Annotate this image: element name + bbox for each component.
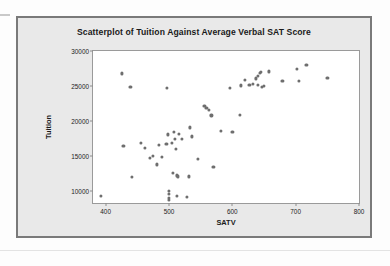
scatter-point [252, 83, 255, 86]
x-axis-tick-mark [105, 203, 106, 206]
scatter-point [166, 87, 169, 90]
scatter-point [129, 85, 132, 88]
scatter-point [207, 108, 210, 111]
y-axis-tick-mark [90, 156, 93, 157]
scatter-point [177, 132, 180, 135]
figure-root: Scatterplot of Tuition Against Average V… [0, 0, 390, 266]
scatter-point [151, 154, 154, 157]
x-axis-tick-mark [359, 203, 360, 206]
scatter-point [171, 172, 174, 175]
scatter-point [257, 83, 260, 86]
scatter-point [171, 141, 174, 144]
scatter-point [181, 137, 184, 140]
scatter-point [122, 144, 125, 147]
scatter-point [305, 63, 308, 66]
scatter-point [172, 130, 175, 133]
scatter-point [167, 198, 170, 201]
scatter-point [190, 135, 193, 138]
scatter-point [297, 80, 300, 83]
scatter-point [165, 143, 168, 146]
x-axis-label: SATV [92, 218, 360, 227]
scatter-points-layer [93, 51, 359, 203]
y-axis-tick-mark [90, 86, 93, 87]
scatter-point [240, 84, 243, 87]
chart-panel: Scatterplot of Tuition Against Average V… [16, 16, 372, 238]
scatter-point [143, 146, 146, 149]
scatter-point [262, 84, 265, 87]
scatter-point [187, 175, 190, 178]
scatter-point [210, 114, 213, 117]
scatter-point [196, 157, 199, 160]
scatter-point [295, 68, 298, 71]
y-axis-label: Tuition [44, 115, 53, 139]
y-axis-tick-mark [90, 51, 93, 52]
scatter-point [228, 87, 231, 90]
scatter-point [99, 194, 102, 197]
scatter-point [231, 131, 234, 134]
scatter-point [174, 147, 177, 150]
scatter-point [176, 175, 179, 178]
scatter-point [120, 72, 123, 75]
scatter-point [130, 175, 133, 178]
scatter-point [166, 133, 169, 136]
scatter-point [212, 165, 215, 168]
scatter-point [175, 194, 178, 197]
x-axis-tick-mark [232, 203, 233, 206]
y-axis-tick-mark [90, 121, 93, 122]
scatter-point [188, 126, 191, 129]
scatter-point [326, 76, 329, 79]
scatter-point [238, 113, 241, 116]
scan-artifact-top [0, 14, 10, 16]
x-axis-tick-mark [295, 203, 296, 206]
scatter-point [139, 141, 142, 144]
scatter-point [267, 70, 270, 73]
scan-artifact-bottom [0, 250, 390, 251]
scatter-point [259, 70, 262, 73]
scatter-point [256, 75, 259, 78]
scatter-point [281, 80, 284, 83]
scatter-point [243, 78, 246, 81]
scatter-point [173, 138, 176, 141]
chart-title: Scatterplot of Tuition Against Average V… [18, 27, 370, 37]
y-axis-tick-mark [90, 191, 93, 192]
plot-area: 1000015000200002500030000400500600700800 [92, 50, 360, 204]
x-axis-tick-mark [169, 203, 170, 206]
scatter-point [185, 195, 188, 198]
scatter-point [157, 143, 160, 146]
scatter-point [155, 163, 158, 166]
scatter-point [219, 129, 222, 132]
scatter-point [160, 155, 163, 158]
scatter-point [248, 83, 251, 86]
